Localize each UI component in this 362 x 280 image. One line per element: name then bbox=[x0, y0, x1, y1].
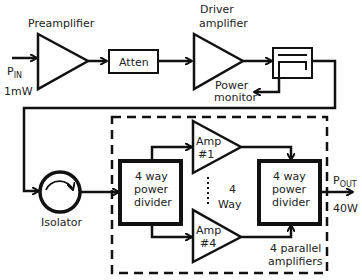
output-divider-line2: power bbox=[272, 183, 306, 196]
amp1-label-line2: #1 bbox=[198, 148, 214, 161]
power-monitor-arrow bbox=[254, 78, 279, 92]
way-label: Way bbox=[218, 198, 242, 211]
amp4-label-line1: Amp bbox=[196, 224, 221, 237]
isolator-rotation-icon bbox=[46, 181, 73, 190]
pout-label: POUT bbox=[333, 174, 357, 189]
amp4-label-line2: #4 bbox=[200, 237, 216, 250]
parallel-label-line1: 4 parallel bbox=[270, 242, 321, 255]
driver-label-line2: amplifier bbox=[199, 17, 248, 30]
preamplifier-label: Preamplifier bbox=[28, 17, 95, 30]
amp1-label-line1: Amp bbox=[196, 135, 221, 148]
attenuator-label: Atten bbox=[119, 56, 149, 69]
power-monitor-label-line2: monitor bbox=[214, 91, 258, 104]
pin-label: PIN bbox=[7, 65, 22, 80]
output-divider-line1: 4 way bbox=[273, 170, 306, 183]
isolator-label: Isolator bbox=[41, 216, 83, 229]
amp1-to-combiner-line bbox=[241, 147, 291, 160]
driver-label-line1: Driver bbox=[200, 3, 234, 16]
input-divider-line3: divider bbox=[134, 196, 172, 209]
pin-value: 1mW bbox=[4, 85, 33, 98]
parallel-label-line2: amplifiers bbox=[268, 255, 323, 268]
pout-value: 40W bbox=[333, 202, 358, 215]
amp4-to-combiner-line bbox=[241, 225, 291, 237]
preamplifier-triangle bbox=[38, 34, 88, 89]
coupler-coupled-line bbox=[279, 62, 306, 78]
way-count: 4 bbox=[229, 183, 236, 196]
divider-to-amp1-line bbox=[152, 147, 192, 161]
block-diagram: PIN 1mW Preamplifier Atten Driver amplif… bbox=[0, 0, 362, 280]
input-divider-line1: 4 way bbox=[135, 170, 168, 183]
output-divider-line3: divider bbox=[272, 196, 310, 209]
isolator-circle bbox=[40, 172, 80, 212]
input-divider-line2: power bbox=[134, 183, 168, 196]
